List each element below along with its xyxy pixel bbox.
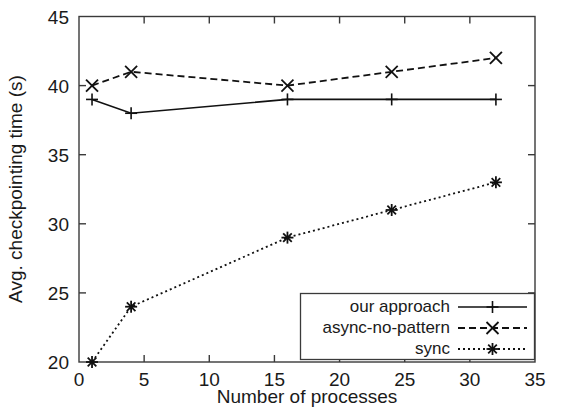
data-point: [86, 93, 98, 105]
data-point: [490, 52, 502, 64]
data-point: [125, 301, 137, 313]
y-axis-ticks-right: [528, 86, 535, 293]
data-point: [386, 204, 398, 216]
y-tick-label-45: 45: [48, 7, 69, 28]
y-tick-label-30: 30: [48, 214, 69, 235]
y-tick-label-20: 20: [48, 352, 69, 373]
chart-container: 05101520253035 202530354045 Number of pr…: [0, 0, 568, 411]
legend-item-label-async-no-pattern: async-no-pattern: [322, 318, 450, 337]
chart-legend: our approach async-no-pattern sync: [301, 294, 535, 360]
data-point: [86, 356, 98, 368]
series-line: [92, 99, 496, 113]
x-tick-label-35: 35: [524, 369, 545, 390]
y-axis-tick-labels: 202530354045: [48, 7, 69, 374]
data-point: [125, 107, 137, 119]
data-point: [490, 93, 502, 105]
legend-sample-marker: [487, 343, 499, 355]
series-line: [92, 58, 496, 86]
data-point: [86, 80, 98, 92]
data-point: [281, 232, 293, 244]
line-chart: 05101520253035 202530354045 Number of pr…: [0, 0, 568, 411]
x-axis-ticks-top: [144, 17, 470, 24]
y-tick-label-40: 40: [48, 76, 69, 97]
legend-item-label-our-approach: our approach: [350, 297, 450, 316]
x-tick-label-0: 0: [74, 369, 85, 390]
y-axis-ticks-left: [79, 86, 86, 293]
data-point: [490, 176, 502, 188]
series-async-no-pattern: [86, 52, 502, 92]
legend-item-label-sync: sync: [415, 339, 450, 358]
x-tick-label-25: 25: [394, 369, 415, 390]
y-tick-label-35: 35: [48, 145, 69, 166]
data-point: [386, 93, 398, 105]
y-tick-label-25: 25: [48, 283, 69, 304]
y-axis-title: Avg. checkpointing time (s): [5, 75, 26, 303]
series-our-approach: [86, 93, 502, 119]
x-axis-title: Number of processes: [217, 386, 398, 407]
x-tick-label-30: 30: [459, 369, 480, 390]
x-tick-label-5: 5: [139, 369, 150, 390]
data-point: [281, 93, 293, 105]
